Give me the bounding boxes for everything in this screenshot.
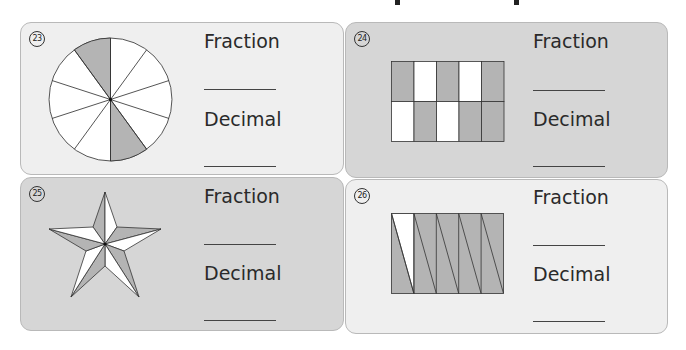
problem-number: 26 [354,188,370,204]
problem-number: 24 [354,31,370,47]
fraction-label: Fraction [533,30,609,52]
triangle-rectangle-diagram [391,213,504,294]
decimal-answer-blank[interactable] [533,321,605,322]
decimal-label: Decimal [533,263,610,285]
fraction-answer-blank[interactable] [204,89,276,90]
cropped-heading-fragment [395,0,400,5]
star-diagram [49,186,161,298]
fraction-answer-blank[interactable] [204,244,276,245]
decimal-label: Decimal [204,262,281,284]
fraction-answer-blank[interactable] [533,90,605,91]
problem-number: 25 [29,186,45,202]
problem-23-card: 23 Fraction Decimal [20,22,344,175]
fraction-answer-blank[interactable] [533,245,605,246]
fraction-label: Fraction [204,185,280,207]
grid-diagram [391,61,505,142]
decimal-label: Decimal [533,108,610,130]
decimal-answer-blank[interactable] [204,320,276,321]
problem-25-card: 25 Fraction Decimal [20,177,344,331]
problem-number: 23 [29,31,45,47]
fraction-label: Fraction [204,30,280,52]
problem-26-card: 26 Fraction Decimal [345,179,668,334]
cropped-heading-fragment [514,0,519,5]
problem-24-card: 24 Fraction Decimal [345,22,668,178]
decimal-answer-blank[interactable] [533,166,605,167]
fraction-label: Fraction [533,186,609,208]
decimal-answer-blank[interactable] [204,166,276,167]
circle-diagram [48,37,173,162]
decimal-label: Decimal [204,108,281,130]
